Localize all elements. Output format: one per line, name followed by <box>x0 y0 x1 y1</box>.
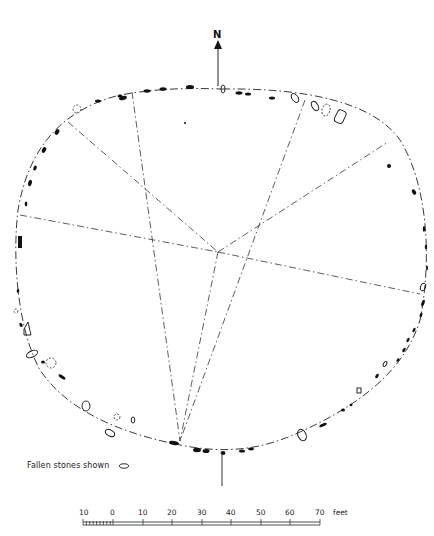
scale-tick-label: 40 <box>226 508 236 517</box>
survey-lines <box>20 92 420 441</box>
scale-tick-label: 50 <box>256 508 266 517</box>
fallen-stone-legend-icon <box>120 464 129 468</box>
scale-tick-label: 10 <box>79 508 89 517</box>
site-plan: N <box>0 0 434 536</box>
scale-unit-label: feet <box>333 508 348 517</box>
scale-tick-label: 0 <box>110 508 115 517</box>
scale-bar: 10 0 10 20 30 40 50 60 70 feet <box>79 508 348 525</box>
fallen-stones <box>24 85 427 442</box>
standing-stones <box>17 85 428 455</box>
scale-tick-label: 70 <box>315 508 325 517</box>
scale-tick-label: 30 <box>197 508 207 517</box>
scale-tick-label: 10 <box>138 508 148 517</box>
scale-tick-label: 20 <box>167 508 177 517</box>
scale-tick-label: 60 <box>285 508 295 517</box>
north-arrow-icon: N <box>213 29 222 86</box>
circle-perimeter <box>16 89 427 450</box>
legend-text: Fallen stones shown <box>27 461 109 470</box>
north-label: N <box>213 29 221 40</box>
stone-holes <box>14 103 331 420</box>
